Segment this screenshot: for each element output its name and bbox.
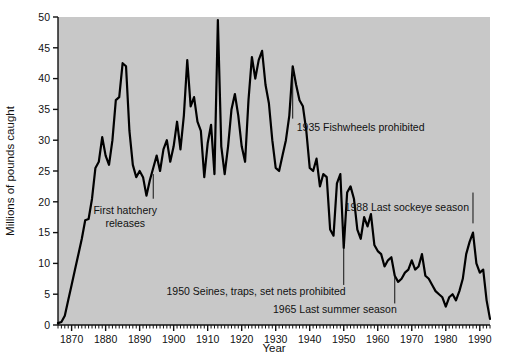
- y-tick-label: 5: [44, 288, 50, 300]
- y-tick-label: 30: [38, 134, 50, 146]
- x-tick-label: 1900: [162, 333, 186, 345]
- annotation-label: 1965 Last summer season: [273, 303, 397, 315]
- x-tick-label: 1970: [400, 333, 424, 345]
- y-tick-label: 40: [38, 72, 50, 84]
- annotation-label: 1988 Last sockeye season: [345, 201, 469, 213]
- x-tick-label: 1950: [332, 333, 356, 345]
- y-tick-label: 20: [38, 196, 50, 208]
- x-tick-label: 1880: [94, 333, 118, 345]
- y-tick-label: 0: [44, 319, 50, 331]
- x-tick-label: 1910: [196, 333, 220, 345]
- y-axis-title: Millions of pounds caught: [4, 105, 16, 236]
- annotation-label: First hatchery: [93, 204, 157, 216]
- x-tick-label: 1980: [434, 333, 458, 345]
- x-tick-label: 1890: [128, 333, 152, 345]
- annotation-label: 1935 Fishwheels prohibited: [297, 121, 425, 133]
- x-tick-label: 1940: [298, 333, 322, 345]
- y-tick-label: 15: [38, 226, 50, 238]
- salmon-catch-line-chart: 05101520253035404550 1870188018901900191…: [0, 0, 515, 358]
- y-tick-label: 25: [38, 165, 50, 177]
- x-tick-label: 1920: [230, 333, 254, 345]
- x-axis-title: Year: [262, 342, 285, 354]
- x-tick-label: 1870: [60, 333, 84, 345]
- y-tick-label: 35: [38, 103, 50, 115]
- annotation-label: releases: [105, 217, 145, 229]
- y-tick-label: 50: [38, 11, 50, 23]
- y-tick-label: 45: [38, 42, 50, 54]
- annotation-label: 1950 Seines, traps, set nets prohibited: [167, 285, 346, 297]
- y-tick-label: 10: [38, 257, 50, 269]
- x-tick-label: 1990: [468, 333, 492, 345]
- chart-figure: 05101520253035404550 1870188018901900191…: [0, 0, 515, 358]
- x-tick-label: 1960: [366, 333, 390, 345]
